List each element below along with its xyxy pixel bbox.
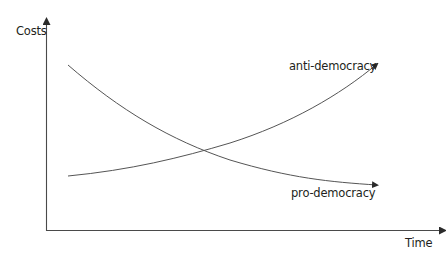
anti-democracy-curve — [68, 64, 377, 176]
diagram-canvas — [0, 0, 446, 259]
x-axis-label: Time — [405, 236, 432, 250]
y-axis-label: Costs — [16, 24, 47, 38]
anti-democracy-label: anti-democracy — [289, 59, 376, 73]
pro-democracy-curve — [68, 65, 377, 185]
pro-democracy-label: pro-democracy — [291, 186, 375, 200]
